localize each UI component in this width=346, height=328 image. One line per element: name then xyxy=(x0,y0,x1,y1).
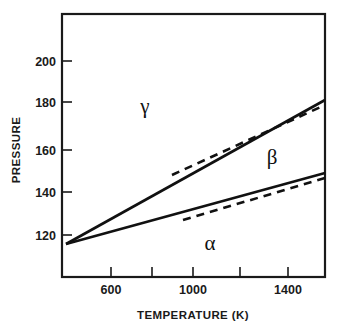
phase-diagram-figure: 200 180 160 140 120 600 1000 1400 TEMPER… xyxy=(0,0,346,328)
phase-boundary-curves xyxy=(66,100,325,244)
phase-label-beta: β xyxy=(267,145,278,169)
y-tick-label-140: 140 xyxy=(35,186,56,200)
gamma-beta-boundary-dashed xyxy=(172,105,325,175)
phase-label-alpha: α xyxy=(204,231,215,255)
y-tick-label-120: 120 xyxy=(35,229,56,243)
x-axis-title: TEMPERATURE (K) xyxy=(137,309,249,321)
x-axis-ticks xyxy=(111,267,288,277)
y-tick-label-180: 180 xyxy=(35,96,56,110)
beta-alpha-boundary-solid xyxy=(66,173,325,244)
phase-diagram-chart: 200 180 160 140 120 600 1000 1400 TEMPER… xyxy=(0,0,346,328)
x-tick-label-1400: 1400 xyxy=(274,283,302,297)
x-tick-label-1000: 1000 xyxy=(179,283,207,297)
beta-alpha-boundary-dashed xyxy=(183,178,325,220)
y-tick-label-160: 160 xyxy=(35,144,56,158)
y-axis-title: PRESSURE xyxy=(10,117,22,183)
y-axis-ticks xyxy=(62,61,72,235)
y-tick-label-200: 200 xyxy=(35,55,56,69)
x-tick-label-600: 600 xyxy=(101,283,122,297)
phase-label-gamma: γ xyxy=(139,94,149,118)
plot-frame xyxy=(62,14,325,277)
